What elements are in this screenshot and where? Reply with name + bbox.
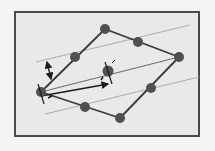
vector-arrows (41, 62, 108, 96)
lattice-vector-arrow (41, 84, 108, 96)
plane-line (45, 77, 199, 114)
atom-top-vertex (100, 24, 110, 34)
lattice-diagram (0, 0, 215, 151)
atom-right-vertex (174, 52, 184, 62)
atom-mid-top-left (70, 52, 80, 62)
atom-mid-bottom-left (80, 102, 90, 112)
atom-mid-top-right (133, 37, 143, 47)
atom-mid-bottom-right (146, 83, 156, 93)
lattice-plane-lines (36, 25, 199, 114)
plane-line (36, 25, 190, 62)
plane-spacing-arrow (47, 62, 51, 79)
atom-orientation-ticks (38, 60, 115, 104)
atom-bottom-vertex (115, 113, 125, 123)
